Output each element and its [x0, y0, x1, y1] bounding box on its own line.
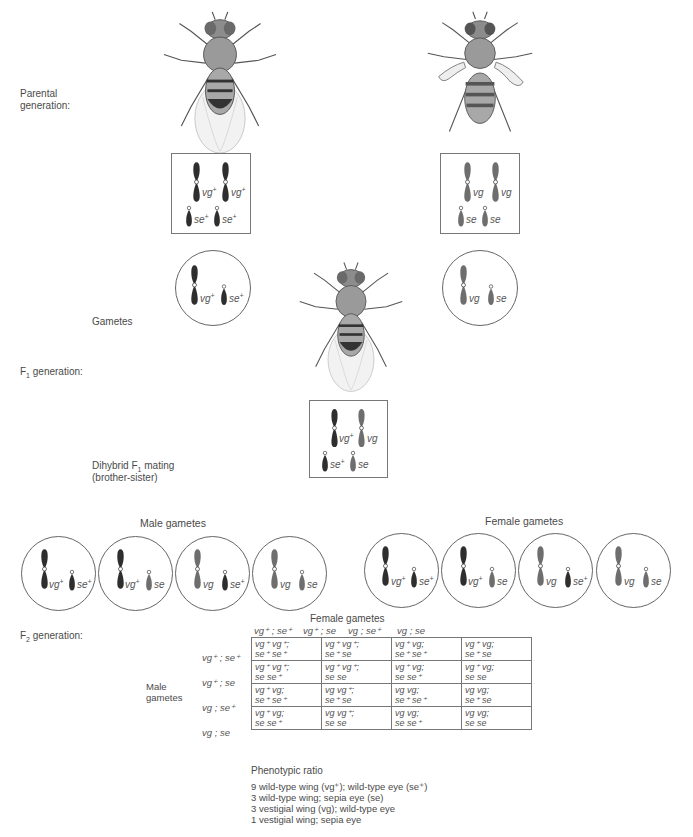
mutant-genotype-box: vg vg se se	[440, 153, 520, 234]
gametes-label: Gametes	[92, 316, 133, 328]
parental-gamete-wild-type: vg+ se+	[175, 250, 251, 326]
chromosome-vg-plus-icon	[40, 547, 49, 591]
punnett-row: vg⁺ vg;se⁺ se⁺ vg vg⁺;se⁺ se vg vg;se⁺ s…	[252, 684, 532, 707]
chromosome-se-icon	[487, 283, 495, 306]
f2-suffix: generation:	[30, 630, 83, 641]
dihybrid-prefix: Dihybrid F	[92, 460, 138, 471]
male-gamete-4: vg se	[252, 536, 327, 611]
phenotypic-ratio-title: Phenotypic ratio	[251, 765, 323, 777]
punnett-col-header-2: vg⁺ ; se	[303, 625, 336, 636]
chromosome-se-icon	[488, 565, 496, 589]
chromosome-vg-icon	[463, 162, 472, 202]
parental-label-line2: generation:	[20, 100, 70, 112]
punnett-cell: vg vg;se⁺ se⁺	[392, 684, 462, 707]
punnett-col-header-3: vg ; se⁺	[348, 625, 381, 636]
chromosome-vg-icon	[614, 544, 623, 588]
punnett-cell: vg vg⁺;se⁺ se	[322, 684, 392, 707]
parental-gamete-mutant: vg se	[442, 250, 518, 326]
chromosome-vg-icon	[491, 162, 500, 202]
chromosome-vg-plus-icon	[192, 162, 201, 202]
punnett-cell: vg vg⁺;se se	[322, 707, 392, 730]
chromosome-vg-plus-icon	[330, 409, 339, 447]
phenotypic-ratio-line: 1 vestigial wing; sepia eye	[251, 814, 361, 826]
male-title-line2: gametes	[146, 692, 182, 703]
chromosome-se-icon	[642, 565, 650, 589]
punnett-cell: vg⁺ vg;se⁺ se⁺	[252, 684, 322, 707]
female-gamete-1: vg+ se+	[364, 533, 439, 608]
wild-type-fly-icon	[160, 10, 280, 155]
chromosome-vg-icon	[357, 409, 366, 447]
phenotypic-ratio-line: 3 vestigial wing (vg); wild-type eye	[251, 803, 395, 815]
chromosome-se-icon	[457, 205, 465, 227]
punnett-row: vg⁺ vg;se se⁺ vg vg⁺;se se vg vg;se se⁺ …	[252, 707, 532, 730]
dihybrid-line2: (brother-sister)	[92, 472, 174, 484]
chromosome-vg-plus-icon	[221, 162, 230, 202]
chromosome-vg-icon	[270, 547, 279, 591]
chromosome-vg-plus-icon	[116, 547, 125, 591]
male-gamete-3: vg se+	[175, 536, 250, 611]
punnett-cell: vg⁺ vg⁺;se⁺ se⁺	[252, 638, 322, 661]
f1-wild-type-fly-icon	[298, 258, 404, 396]
chromosome-vg-plus-icon	[190, 264, 199, 306]
chromosome-se-plus-icon	[220, 283, 228, 306]
chromosome-se-icon	[298, 568, 306, 592]
punnett-cell: vg vg;se se⁺	[392, 707, 462, 730]
chromosome-se-icon	[145, 568, 153, 592]
female-gametes-title: Female gametes	[485, 515, 563, 527]
f1-suffix: generation:	[30, 366, 83, 377]
punnett-cell: vg vg;se se	[462, 707, 532, 730]
punnett-cell: vg vg;se⁺ se	[462, 684, 532, 707]
punnett-row: vg⁺ vg⁺;se⁺ se⁺ vg⁺ vg⁺;se⁺ se vg⁺ vg;se…	[252, 638, 532, 661]
punnett-row-header-3: vg ; se⁺	[202, 702, 235, 713]
phenotypic-ratio-line: 3 wild-type wing; sepia eye (se)	[251, 792, 384, 804]
parental-label-line1: Parental	[20, 88, 70, 100]
chromosome-se-plus-icon	[213, 205, 221, 227]
punnett-col-header-1: vg⁺ ; se⁺	[254, 625, 292, 636]
wild-type-genotype-box: vg+ vg+ se+ se+	[171, 153, 251, 234]
punnett-cell: vg⁺ vg;se⁺ se	[462, 638, 532, 661]
punnett-male-title: Male gametes	[146, 681, 182, 703]
chromosome-se-plus-icon	[564, 565, 572, 589]
punnett-cell: vg⁺ vg⁺;se⁺ se	[322, 638, 392, 661]
chromosome-vg-icon	[193, 547, 202, 591]
punnett-cell: vg⁺ vg⁺;se se	[322, 661, 392, 684]
punnett-row-header-4: vg ; se	[202, 727, 230, 738]
male-gamete-1: vg+ se+	[21, 536, 96, 611]
chromosome-vg-plus-icon	[381, 544, 390, 588]
male-gametes-title: Male gametes	[140, 517, 206, 529]
male-title-line1: Male	[146, 681, 182, 692]
punnett-row-header-1: vg⁺ ; se⁺	[202, 652, 240, 663]
chromosome-se-plus-icon	[68, 568, 76, 592]
dihybrid-mating-label: Dihybrid F1 mating (brother-sister)	[92, 460, 174, 484]
f1-generation-label: F1 generation:	[20, 366, 83, 378]
chromosome-se-plus-icon	[185, 205, 193, 227]
punnett-row: vg⁺ vg⁺;se se⁺ vg⁺ vg⁺;se se vg⁺ vg;se s…	[252, 661, 532, 684]
punnett-cell: vg⁺ vg;se⁺ se⁺	[392, 638, 462, 661]
chromosome-se-plus-icon	[221, 568, 229, 592]
punnett-cell: vg⁺ vg;se se⁺	[392, 661, 462, 684]
chromosome-vg-plus-icon	[459, 544, 468, 588]
chromosome-vg-icon	[459, 264, 468, 306]
chromosome-se-plus-icon	[410, 565, 418, 589]
phenotypic-ratio-line: 9 wild-type wing (vg⁺); wild-type eye (s…	[251, 781, 427, 793]
punnett-cell: vg⁺ vg;se se	[462, 661, 532, 684]
vestigial-sepia-fly-icon	[420, 10, 540, 145]
female-gamete-2: vg+ se	[441, 533, 516, 608]
punnett-female-title: Female gametes	[310, 613, 384, 625]
punnett-col-header-4: vg ; se	[397, 625, 425, 636]
punnett-cell: vg⁺ vg⁺;se se⁺	[252, 661, 322, 684]
punnett-row-header-2: vg⁺ ; se	[202, 677, 235, 688]
female-gamete-3: vg se+	[518, 533, 593, 608]
male-gamete-2: vg+ se	[98, 536, 173, 611]
female-gamete-4: vg se	[596, 533, 671, 608]
parental-generation-label: Parental generation:	[20, 88, 70, 112]
chromosome-vg-icon	[536, 544, 545, 588]
f2-generation-label: F2 generation:	[20, 630, 83, 642]
chromosome-se-icon	[481, 205, 489, 227]
punnett-square: vg⁺ vg⁺;se⁺ se⁺ vg⁺ vg⁺;se⁺ se vg⁺ vg;se…	[251, 637, 532, 730]
chromosome-se-icon	[349, 450, 357, 472]
f1-genotype-box: vg+ vg se+ se	[309, 400, 388, 478]
punnett-cell: vg⁺ vg;se se⁺	[252, 707, 322, 730]
dihybrid-suffix: mating	[141, 460, 174, 471]
chromosome-se-plus-icon	[321, 450, 329, 472]
